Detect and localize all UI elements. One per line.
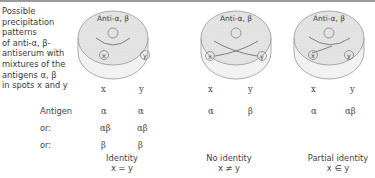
column-label-y: y — [139, 84, 144, 94]
column-label-x: x — [208, 84, 213, 94]
identity-y-value: α — [138, 106, 144, 116]
partial-identity-x-value: α — [311, 106, 317, 116]
svg-text:x: x — [102, 52, 106, 60]
svg-text:y: y — [347, 52, 351, 60]
identity-x-value: β — [101, 140, 106, 150]
caption-identity: Identity x = y — [77, 153, 167, 173]
caption-title: No identity — [184, 153, 274, 163]
antiserum-label: Anti-α, β — [313, 14, 345, 23]
caption-title: Identity — [77, 153, 167, 163]
svg-text:y: y — [260, 53, 264, 61]
row-label-or: or: — [40, 140, 51, 150]
column-label-y: y — [350, 84, 355, 94]
row-label-or: or: — [40, 123, 51, 133]
identity-x-value: α — [101, 106, 107, 116]
column-label-y: y — [248, 84, 253, 94]
petri-dishes: Anti-α, β x y Anti-α, β x y Anti-α, β x … — [0, 0, 375, 100]
antiserum-label: Anti-α, β — [220, 14, 252, 23]
column-label-x: x — [311, 84, 316, 94]
no-identity-y-value: β — [248, 106, 253, 116]
petri-dish-partial-identity: Anti-α, β x y — [294, 11, 364, 79]
partial-identity-y-value: αβ — [345, 106, 356, 116]
row-label-antigen: Antigen — [40, 106, 72, 116]
no-identity-x-value: α — [208, 106, 214, 116]
petri-dish-no-identity: Anti-α, β x y — [201, 11, 271, 79]
identity-y-value: αβ — [137, 123, 148, 133]
column-label-x: x — [101, 84, 106, 94]
identity-x-value: αβ — [100, 123, 111, 133]
caption-formula: x = y — [77, 163, 167, 173]
caption-formula: x ≠ y — [184, 163, 274, 173]
caption-no-identity: No identity x ≠ y — [184, 153, 274, 173]
caption-formula: x ∈ y — [290, 163, 375, 173]
svg-text:x: x — [311, 52, 315, 60]
petri-dish-identity: Anti-α, β x y — [78, 11, 150, 79]
identity-y-value: β — [138, 140, 143, 150]
antiserum-label: Anti-α, β — [97, 14, 129, 23]
caption-partial-identity: Partial identity x ∈ y — [290, 153, 375, 173]
svg-text:x: x — [208, 53, 212, 61]
caption-title: Partial identity — [290, 153, 375, 163]
svg-text:y: y — [143, 52, 147, 60]
